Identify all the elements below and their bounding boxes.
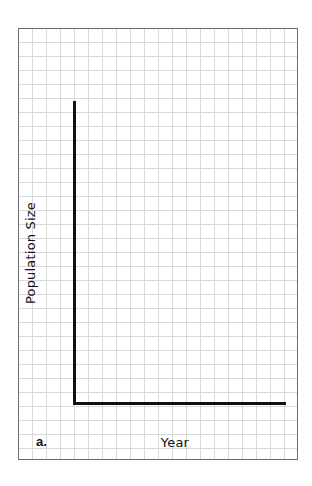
y-axis-line xyxy=(73,101,76,405)
graph-paper-frame xyxy=(18,28,298,460)
x-axis-line xyxy=(73,402,286,405)
x-axis-label: Year xyxy=(161,435,189,450)
panel-label: a. xyxy=(36,434,47,449)
y-axis-label: Population Size xyxy=(23,202,38,304)
